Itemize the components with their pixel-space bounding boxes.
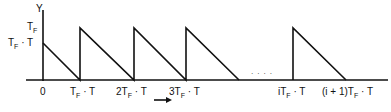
x-tick-i-plus-1: (i + 1)TF · T [322, 87, 373, 97]
y-tick-tf-minus-t: TF · T [8, 38, 33, 48]
y-tick-tf: TF [27, 22, 37, 32]
sawtooth-wave [43, 28, 239, 80]
ellipsis: · · · · [251, 70, 273, 77]
x-tick-0: 0 [40, 87, 46, 97]
x-tick-3: 3TF · T [169, 87, 200, 97]
x-tick-2: 2TF · T [116, 87, 147, 97]
sawtooth-last-tooth [293, 28, 346, 80]
arrow-head-icon [166, 97, 172, 103]
x-tick-i: iTF · T [278, 87, 305, 97]
y-axis-label: Y [36, 4, 43, 14]
x-tick-1: TF · T [70, 87, 95, 97]
